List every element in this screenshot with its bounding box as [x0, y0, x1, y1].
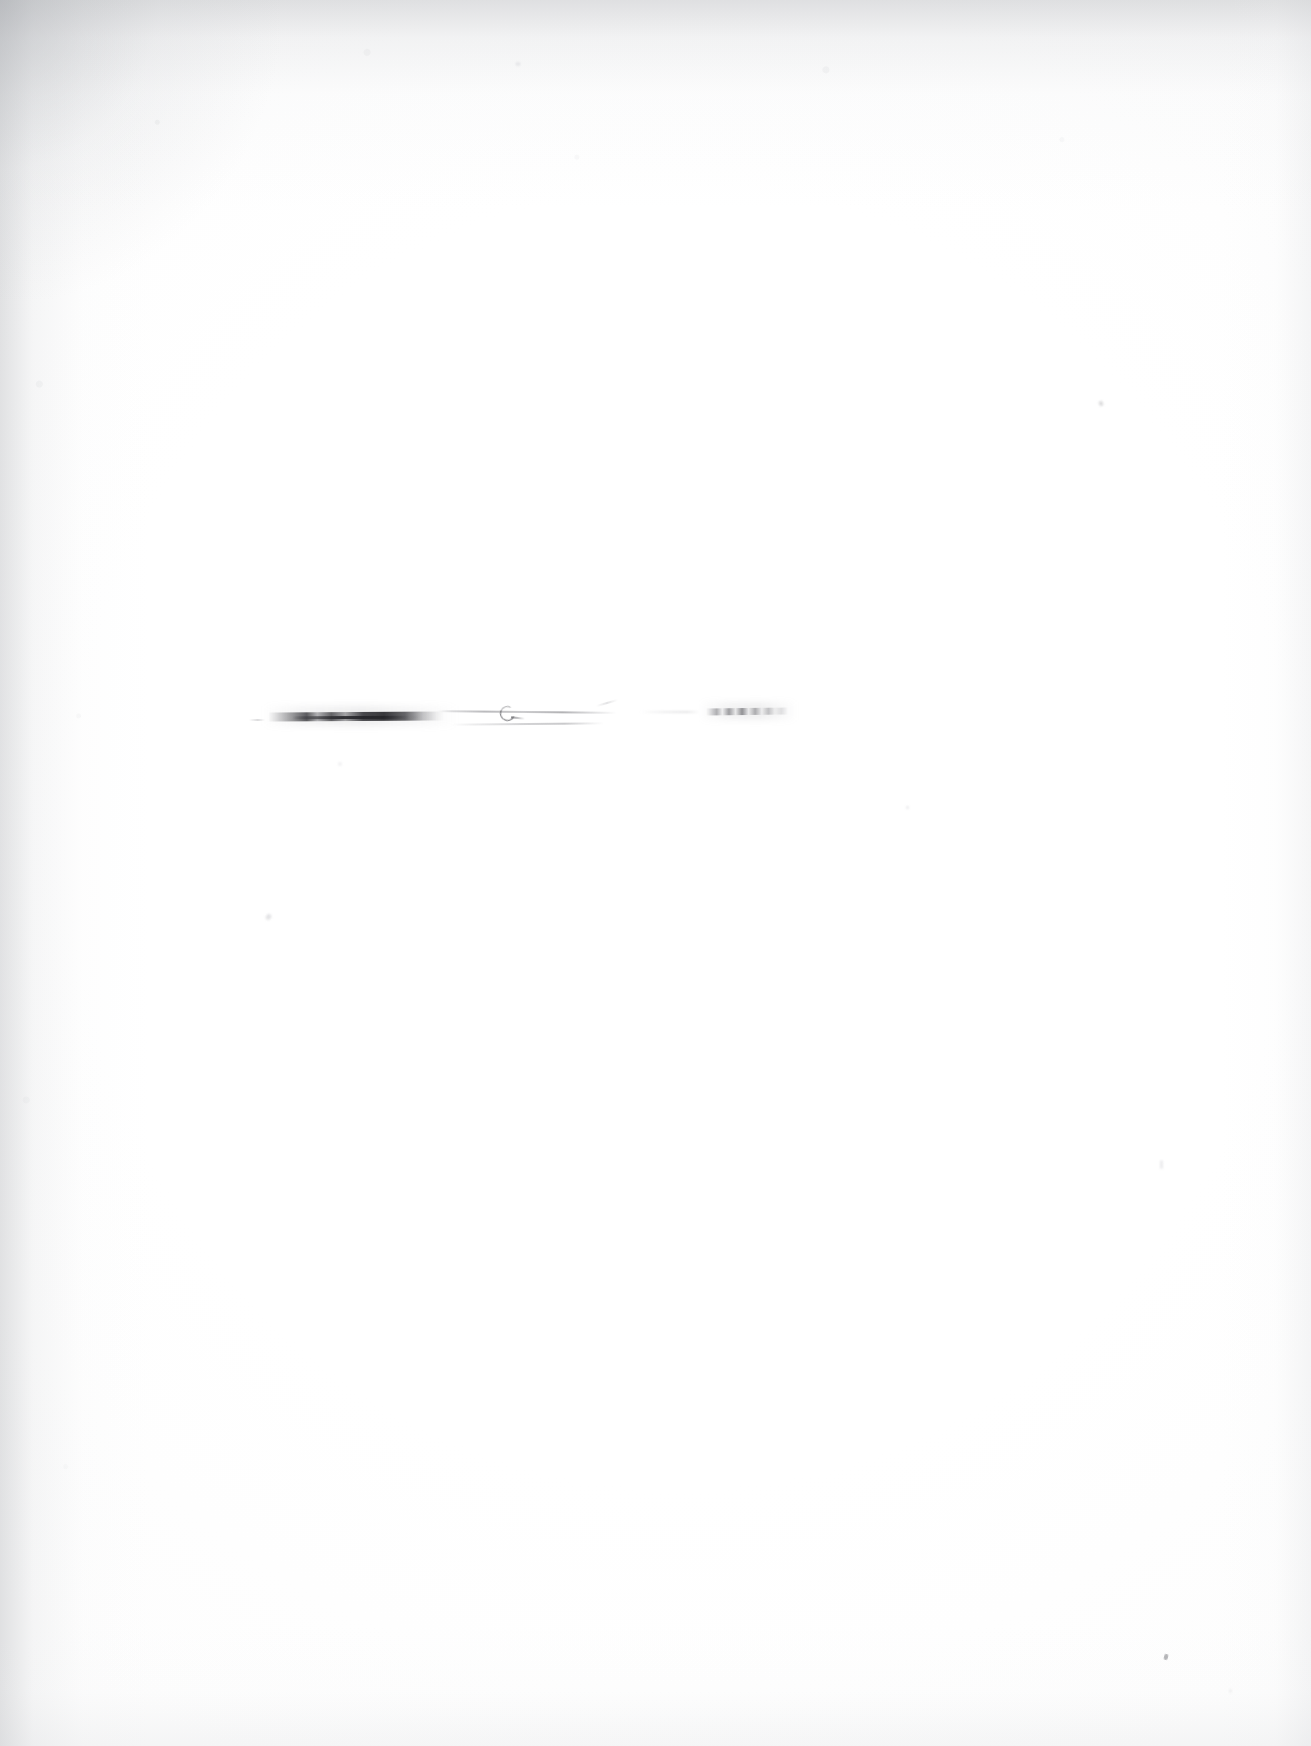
- page-text-region: [0, 0, 1311, 1746]
- scanned-page: [0, 0, 1311, 1746]
